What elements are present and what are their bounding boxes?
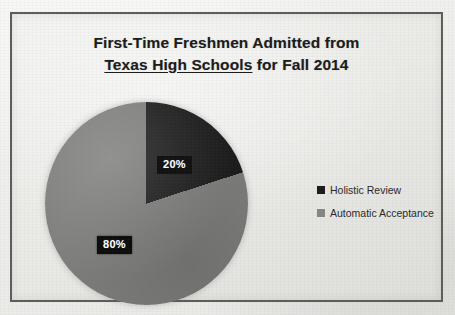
chart-title-emphasis: Texas High Schools bbox=[104, 56, 252, 73]
chart-frame: First-Time Freshmen Admitted from Texas … bbox=[10, 12, 443, 302]
legend-label-holistic-review: Holistic Review bbox=[330, 184, 401, 196]
chart-screenshot: First-Time Freshmen Admitted from Texas … bbox=[0, 0, 455, 315]
legend-swatch-icon-automatic-acceptance bbox=[317, 209, 325, 217]
legend-item-automatic-acceptance[interactable]: Automatic Acceptance bbox=[317, 207, 452, 219]
legend-item-holistic-review[interactable]: Holistic Review bbox=[317, 184, 452, 196]
pie-data-label-holistic-review: 20% bbox=[157, 156, 192, 174]
chart-title-line-2: Texas High Schools for Fall 2014 bbox=[12, 54, 441, 76]
chart-title-line-2-rest: for Fall 2014 bbox=[252, 56, 348, 73]
chart-legend: Holistic Review Automatic Acceptance bbox=[317, 184, 452, 230]
pie-slices[interactable] bbox=[45, 102, 248, 305]
legend-swatch-icon-holistic-review bbox=[317, 186, 325, 194]
pie-chart bbox=[45, 102, 248, 305]
legend-label-automatic-acceptance: Automatic Acceptance bbox=[330, 207, 434, 219]
chart-title: First-Time Freshmen Admitted from Texas … bbox=[12, 32, 441, 76]
chart-title-line-1: First-Time Freshmen Admitted from bbox=[12, 32, 441, 54]
pie-data-label-automatic-acceptance: 80% bbox=[97, 236, 132, 254]
